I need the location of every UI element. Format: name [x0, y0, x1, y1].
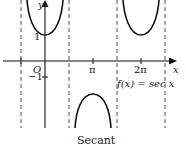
y-axis-label: y	[37, 0, 44, 10]
y-neg-one-label: −1	[28, 71, 43, 82]
function-label: f(x) = sec x	[116, 78, 175, 89]
caption: Secant	[77, 134, 116, 147]
x-axis-label: x	[173, 64, 179, 75]
secant-graph: y x O 1 −1 π 2π f(x) = sec x Secant	[0, 0, 186, 149]
pi-label: π	[89, 64, 96, 75]
branch-2pi	[123, 0, 159, 35]
branch-pi	[75, 94, 111, 128]
y-one-label: 1	[34, 31, 40, 42]
two-pi-label: 2π	[134, 64, 147, 75]
